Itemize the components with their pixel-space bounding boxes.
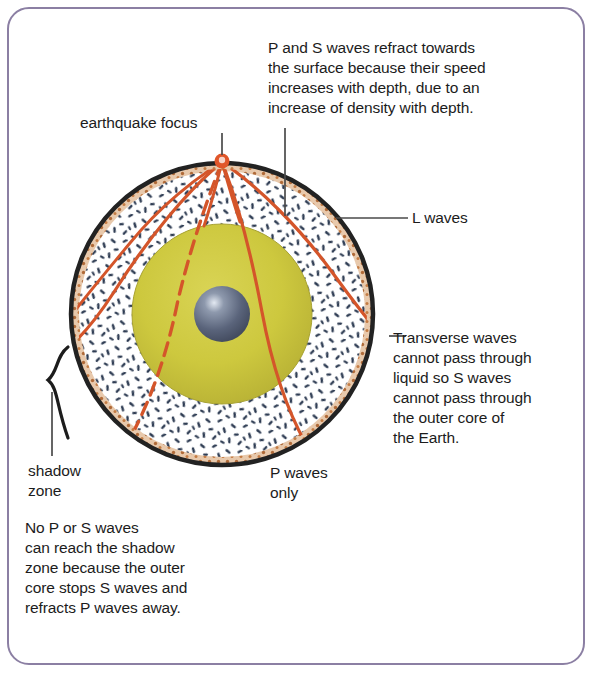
annotation-transverse-waves: Transverse waves cannot pass through liq… xyxy=(393,328,578,448)
annotation-no-p-or-s-waves: No P or S waves can reach the shadow zon… xyxy=(25,518,305,618)
shadow-zone-brace xyxy=(48,347,68,438)
annotation-l-waves: L waves xyxy=(412,208,562,228)
earth-globe xyxy=(66,162,373,465)
annotation-earthquake-focus: earthquake focus xyxy=(80,113,260,133)
inner-core-layer xyxy=(194,286,250,342)
annotation-shadow-zone: shadow zone xyxy=(28,461,138,501)
annotation-p-waves-only: P waves only xyxy=(270,463,380,503)
annotation-p-and-s-waves-refract: P and S waves refract towards the surfac… xyxy=(268,38,568,118)
earthquake-focus-marker xyxy=(215,154,230,169)
